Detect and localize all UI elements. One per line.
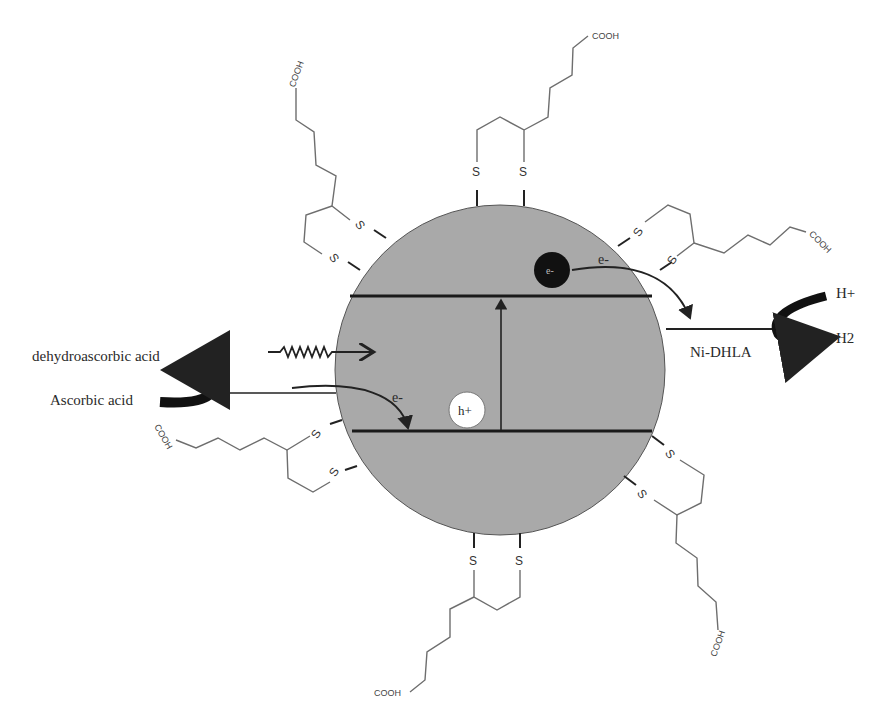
oxidation-arrow (160, 370, 212, 402)
svg-text:COOH: COOH (709, 629, 728, 658)
svg-text:S: S (469, 554, 477, 568)
ligand-left: S S COOH (152, 420, 357, 492)
ligand-bottom: S S COOH (374, 533, 523, 698)
dehydroascorbic-label: dehydroascorbic acid (32, 348, 160, 364)
svg-text:S: S (308, 427, 324, 441)
svg-text:S: S (472, 165, 480, 179)
svg-text:COOH: COOH (374, 688, 401, 698)
svg-text:S: S (326, 465, 342, 479)
svg-text:COOH: COOH (152, 423, 174, 451)
hole-particle: h+ (449, 392, 485, 428)
svg-text:COOH: COOH (592, 31, 619, 41)
catalyst-label: Ni-DHLA (690, 344, 752, 360)
ligand-upper-right: S S COOH (618, 205, 833, 270)
svg-text:e-: e- (598, 252, 609, 267)
svg-text:H2: H2 (836, 330, 854, 346)
svg-text:S: S (630, 225, 646, 239)
svg-text:S: S (326, 251, 342, 266)
svg-text:e-: e- (392, 390, 403, 405)
ligand-top: S S COOH (472, 31, 619, 206)
svg-text:h+: h+ (458, 403, 472, 418)
ascorbic-label: Ascorbic acid (50, 392, 133, 408)
ligand-upper-left: S S COOH (287, 60, 386, 270)
svg-text:S: S (662, 447, 678, 462)
svg-text:S: S (352, 218, 368, 233)
svg-text:S: S (519, 165, 527, 179)
svg-text:COOH: COOH (287, 60, 306, 89)
svg-text:e-: e- (546, 265, 554, 276)
diagram-canvas: e- h+ e- Ni-DHLA H+ H2 e- dehydroascorbi… (0, 0, 886, 719)
ligand-lower-right: S S COOH (624, 436, 727, 658)
svg-text:S: S (634, 487, 650, 502)
hydrogen-evolution-arrow (776, 296, 832, 341)
svg-text:COOH: COOH (807, 229, 833, 255)
svg-text:S: S (515, 554, 523, 568)
svg-text:H+: H+ (836, 285, 855, 301)
nanoparticle-core (335, 205, 665, 535)
electron-particle: e- (534, 252, 570, 288)
